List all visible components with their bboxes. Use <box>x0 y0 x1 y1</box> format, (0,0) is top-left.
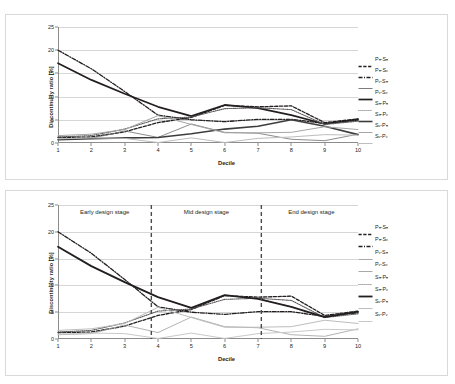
y-axis-tick: 25 <box>48 202 54 208</box>
x-axis-tick-mark <box>224 143 225 146</box>
legend-item: Pᵥ-Sₕ <box>358 249 388 256</box>
x-axis-tick-mark <box>291 339 292 342</box>
series-line <box>58 63 358 124</box>
y-axis-tick: 0 <box>51 336 54 342</box>
legend-swatch <box>358 133 373 140</box>
x-axis-tick-mark <box>58 143 59 146</box>
legend-swatch <box>358 100 373 107</box>
series-lines <box>58 27 358 143</box>
x-axis-tick: 4 <box>156 147 159 153</box>
y-axis-tick: 20 <box>48 229 54 235</box>
x-axis-tick: 7 <box>256 343 259 349</box>
x-axis-tick-mark <box>91 339 92 342</box>
legend-swatch <box>358 274 373 281</box>
series-line <box>58 247 358 317</box>
legend-swatch <box>358 224 373 231</box>
y-axis-tick: 15 <box>48 70 54 76</box>
x-axis-tick-mark <box>124 143 125 146</box>
legend-item: Pₕ-Sᵥ <box>358 236 388 243</box>
x-axis-tick-mark <box>324 339 325 342</box>
y-axis-tick: 10 <box>48 94 54 100</box>
legend-swatch <box>358 249 373 256</box>
x-axis-tick-mark <box>258 143 259 146</box>
legend-item: Pₕ-Sᵥ <box>358 67 388 74</box>
legend-label: Sₕ-Pₕ <box>375 100 388 107</box>
x-axis-tick: 7 <box>256 147 259 153</box>
legend-item: Pᵥ-Sₕ <box>358 78 388 85</box>
legend-label: Pᵥ-Sᵥ <box>375 89 387 96</box>
y-axis-tick: 10 <box>48 282 54 288</box>
legend-swatch <box>358 78 373 85</box>
x-axis-tick: 5 <box>190 343 193 349</box>
x-axis-tick-mark <box>191 143 192 146</box>
legend-label: Sₕ-Pᵥ <box>375 286 388 293</box>
y-axis-tick: 15 <box>48 256 54 262</box>
series-line <box>58 247 358 317</box>
legend-swatch <box>358 122 373 129</box>
legend-item: Sₕ-Pᵥ <box>358 111 388 118</box>
legend-bottom: Pₕ-SₕPₕ-SᵥPᵥ-SₕPᵥ-SᵥSₕ-PₕSₕ-PᵥSᵥ-PₕSᵥ-Pᵥ <box>358 224 388 318</box>
series-lines <box>58 205 358 339</box>
x-axis-tick-mark <box>224 339 225 342</box>
legend-swatch <box>358 111 373 118</box>
legend-item: Sₕ-Pᵥ <box>358 286 388 293</box>
legend-item: Pᵥ-Sᵥ <box>358 261 388 268</box>
legend-label: Sᵥ-Pᵥ <box>375 311 387 318</box>
x-axis-tick: 9 <box>323 343 326 349</box>
series-line <box>58 307 358 330</box>
x-axis-tick: 1 <box>56 147 59 153</box>
legend-top: Pₕ-SₕPₕ-SᵥPᵥ-SₕPᵥ-SᵥSₕ-PₕSₕ-PᵥSᵥ-PₕSᵥ-Pᵥ <box>358 56 388 140</box>
series-line <box>58 120 358 140</box>
legend-item: Sᵥ-Pₕ <box>358 298 388 305</box>
legend-swatch <box>358 261 373 268</box>
x-axis-tick: 8 <box>290 147 293 153</box>
legend-label: Pᵥ-Sᵥ <box>375 261 387 268</box>
legend-item: Sₕ-Pₕ <box>358 100 388 107</box>
legend-swatch <box>358 67 373 74</box>
x-axis-tick-mark <box>158 339 159 342</box>
plot-area-bottom: 051015202512345678910Early design stageM… <box>58 205 358 339</box>
x-axis-tick-mark <box>58 339 59 342</box>
x-axis-tick: 1 <box>56 343 59 349</box>
x-axis-tick-mark <box>124 339 125 342</box>
legend-label: Sₕ-Pₕ <box>375 274 388 281</box>
y-axis-tick: 25 <box>48 24 54 30</box>
legend-swatch <box>358 236 373 243</box>
x-axis-tick: 10 <box>355 343 361 349</box>
legend-item: Sᵥ-Pᵥ <box>358 311 388 318</box>
series-line <box>58 116 358 136</box>
legend-label: Sᵥ-Pₕ <box>375 298 388 305</box>
x-axis-tick: 4 <box>156 343 159 349</box>
stage-annotation: Mid design stage <box>184 209 229 215</box>
x-axis-tick-mark <box>258 339 259 342</box>
stage-annotation: Early design stage <box>80 209 129 215</box>
legend-label: Pₕ-Sᵥ <box>375 236 388 243</box>
x-axis-tick: 9 <box>323 147 326 153</box>
legend-swatch <box>358 311 373 318</box>
y-axis-tick: 5 <box>51 117 54 123</box>
x-axis-tick-mark <box>358 339 359 342</box>
x-axis-tick-mark <box>158 143 159 146</box>
legend-item: Pₕ-Sₕ <box>358 224 388 231</box>
legend-item: Pᵥ-Sᵥ <box>358 89 388 96</box>
legend-item: Pₕ-Sₕ <box>358 56 388 63</box>
stage-annotation: End design stage <box>288 209 334 215</box>
legend-label: Sᵥ-Pᵥ <box>375 133 387 140</box>
figure-page: Discontinuity ratio [%] 0510152025123456… <box>0 0 455 384</box>
x-axis-tick-mark <box>291 143 292 146</box>
legend-label: Pᵥ-Sₕ <box>375 78 388 85</box>
x-axis-tick: 2 <box>90 343 93 349</box>
legend-label: Pₕ-Sᵥ <box>375 67 388 74</box>
legend-label: Pₕ-Sₕ <box>375 56 388 63</box>
legend-item: Sᵥ-Pₕ <box>358 122 388 129</box>
legend-item: Sᵥ-Pᵥ <box>358 133 388 140</box>
legend-label: Sₕ-Pᵥ <box>375 111 388 118</box>
x-axis-label-top: Decile <box>6 160 447 166</box>
x-axis-label-bottom: Decile <box>6 356 447 362</box>
x-axis-tick: 3 <box>123 147 126 153</box>
x-axis-tick-mark <box>91 143 92 146</box>
x-axis-tick: 10 <box>355 147 361 153</box>
legend-swatch <box>358 298 373 305</box>
x-axis-tick: 3 <box>123 343 126 349</box>
y-axis-tick: 0 <box>51 140 54 146</box>
